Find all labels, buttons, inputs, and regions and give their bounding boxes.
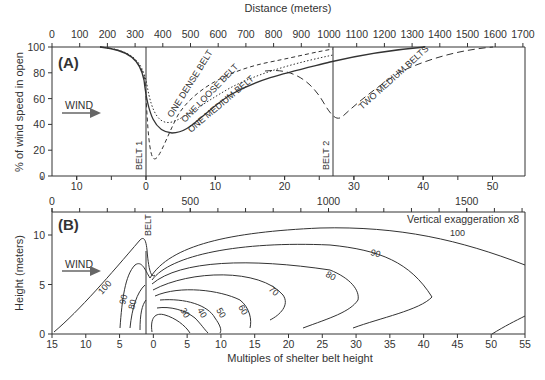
panel-label-b: (B) <box>58 216 79 233</box>
tick-label: 15 <box>249 338 261 350</box>
tick-label: 40 <box>33 118 45 130</box>
tick-label: 1200 <box>373 28 397 40</box>
windbreak-figure: Distance (meters) 0100200300400500600700… <box>0 0 545 380</box>
tick-label: 100 <box>27 41 45 53</box>
tick-label: 0 <box>49 195 55 207</box>
tick-label: 500 <box>181 195 199 207</box>
y-axis-title: % of wind speed in open <box>13 52 25 172</box>
belt-2-label: BELT 2 <box>321 141 331 170</box>
top-axis-title: Distance (meters) <box>245 2 332 14</box>
tick-label: 80 <box>33 67 45 79</box>
contour-right-corner <box>492 316 525 334</box>
tick-label: 1100 <box>345 28 368 40</box>
tick-label: 900 <box>293 28 311 40</box>
tick-label: 300 <box>126 28 144 40</box>
tick-label: 30 <box>348 180 360 192</box>
top-tick-labels-b: 050010001500 <box>49 195 522 212</box>
tick-label: 10 <box>215 338 227 350</box>
contour-label-70: 70 <box>267 284 281 298</box>
tick-label: 0 <box>39 328 45 340</box>
tick-label: 1000 <box>317 28 341 40</box>
contour-label-40: 40 <box>195 306 209 320</box>
tick-label: 1500 <box>456 28 480 40</box>
belt-label: BELT <box>143 214 153 236</box>
tick-label: 500 <box>182 28 200 40</box>
contour-label-90b: 90 <box>369 247 381 259</box>
tick-label: 45 <box>452 338 464 350</box>
tick-label: 5 <box>117 338 123 350</box>
contour-inner <box>140 300 146 330</box>
x-tick-labels-b: 151050510152025303540455055 <box>46 334 531 350</box>
tick-label: 55 <box>519 338 531 350</box>
tick-label: 1300 <box>400 28 424 40</box>
tick-label: 100 <box>71 28 89 40</box>
contour-label-30: 30 <box>178 306 192 320</box>
contour-90-downwind <box>152 244 432 328</box>
tick-label: 20 <box>283 338 295 350</box>
tick-label: 1000 <box>317 195 341 207</box>
tick-label: 10 <box>209 180 221 192</box>
x-axis-title-b: Multiples of shelter belt height <box>227 352 373 364</box>
tick-label: 40 <box>418 338 430 350</box>
tick-label: 1400 <box>428 28 452 40</box>
tick-label: 600 <box>209 28 227 40</box>
tick-label: 25 <box>316 338 328 350</box>
panel-label-a: (A) <box>58 54 79 71</box>
contour-label-80a: 80 <box>126 298 138 310</box>
tick-label: 40 <box>417 180 429 192</box>
tick-label: 30 <box>350 338 362 350</box>
wind-label: WIND <box>65 99 93 111</box>
tick-label: 1500 <box>455 195 479 207</box>
top-tick-labels: 0100200300400500600700800900100011001200… <box>49 28 535 47</box>
tick-label: 10 <box>71 180 83 192</box>
tick-label: 20 <box>33 144 45 156</box>
tick-label: 50 <box>485 338 497 350</box>
tick-label: 10 <box>80 338 92 350</box>
tick-label: 1600 <box>484 28 508 40</box>
contours <box>54 228 525 334</box>
tick-label: 400 <box>154 28 172 40</box>
tick-label: 10 <box>33 229 45 241</box>
y-tick-labels-b: 0510 <box>33 229 52 340</box>
tick-label: 200 <box>99 28 117 40</box>
wind-label-b: WIND <box>65 258 93 270</box>
tick-label: 0 <box>143 180 149 192</box>
exaggeration-note: Vertical exaggeration x8 <box>407 213 519 225</box>
tick-label: 700 <box>237 28 255 40</box>
y-axis-title-b: Height (meters) <box>13 235 25 311</box>
panel-a: Distance (meters) 0100200300400500600700… <box>13 2 535 192</box>
tick-label: 800 <box>265 28 283 40</box>
tick-label: 15 <box>46 338 58 350</box>
bottom-tick-labels: 1001020304050 <box>42 176 498 192</box>
contour-label-100b: 100 <box>450 228 465 238</box>
tick-label: 60 <box>33 93 45 105</box>
tick-label: 5 <box>39 279 45 291</box>
tick-label: 0 <box>49 28 55 40</box>
tick-label: 0 <box>150 338 156 350</box>
contour-label-100a: 100 <box>96 278 113 296</box>
contour-label-50: 50 <box>214 306 228 320</box>
tick-label: 35 <box>384 338 396 350</box>
y-tick-labels: 020406080100 <box>27 41 52 182</box>
tick-label: 20 <box>279 180 291 192</box>
contour-label-60: 60 <box>236 303 250 317</box>
contour-label-80b: 80 <box>324 269 338 283</box>
belt-1-label: BELT 1 <box>134 141 144 170</box>
panel-b: 050010001500 0510 1510505101520253035404… <box>13 195 531 364</box>
tick-label: 50 <box>487 180 499 192</box>
tick-label: 5 <box>184 338 190 350</box>
tick-label: 1700 <box>511 28 535 40</box>
